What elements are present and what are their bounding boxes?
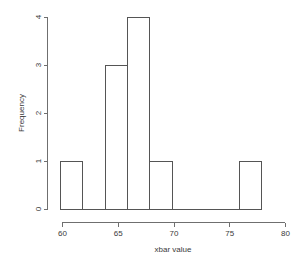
bar-64-66 [105, 66, 127, 210]
bars-group [61, 18, 262, 210]
y-axis-tick-label-1: 1 [34, 158, 43, 163]
x-axis-tick-label-75: 75 [225, 229, 234, 238]
bar-66-68 [127, 18, 149, 210]
bar-76-78 [239, 162, 261, 210]
y-axis-tick-label-4: 4 [34, 14, 43, 19]
bar-60-62 [61, 162, 83, 210]
x-axis-tick-label-70: 70 [170, 229, 179, 238]
x-axis-tick-label-65: 65 [114, 229, 123, 238]
y-axis-tick-label-2: 2 [34, 110, 43, 115]
y-axis-title: Frequency [17, 94, 26, 132]
x-axis-group: 60 65 70 75 80 xbar value [58, 223, 290, 255]
y-axis-tick-label-0: 0 [34, 206, 43, 211]
histogram-chart: 4 3 2 1 0 Frequency [0, 0, 305, 261]
x-axis-tick-label-60: 60 [58, 229, 67, 238]
bar-68-70 [150, 162, 172, 210]
x-axis-title: xbar value [155, 245, 192, 254]
y-axis-group: 4 3 2 1 0 Frequency [17, 14, 47, 211]
y-axis-tick-label-3: 3 [34, 62, 43, 67]
x-axis-tick-label-80: 80 [281, 229, 290, 238]
histogram-plot-container: 4 3 2 1 0 Frequency [0, 0, 305, 261]
